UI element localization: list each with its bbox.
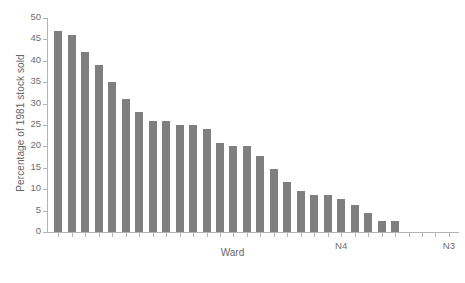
y-tick-group: 15 [47, 168, 48, 169]
y-tick-label: 35 [30, 75, 41, 86]
bar [324, 195, 332, 232]
y-tick-mark [43, 39, 47, 40]
x-tick-mark [368, 233, 369, 237]
y-tick-group: 35 [47, 82, 48, 83]
x-tick-mark [99, 233, 100, 237]
y-tick-label: 30 [30, 97, 41, 108]
y-tick-group: 45 [47, 39, 48, 40]
x-tick-mark [301, 233, 302, 237]
x-tick-mark [274, 233, 275, 237]
x-tick-mark [220, 233, 221, 237]
x-tick-mark [207, 233, 208, 237]
y-tick-mark [43, 211, 47, 212]
y-tick-mark [43, 104, 47, 105]
y-tick-mark [43, 146, 47, 147]
x-tick-mark [153, 233, 154, 237]
x-tick-mark [287, 233, 288, 237]
bar [203, 129, 211, 232]
bar [243, 146, 251, 232]
bar [81, 52, 89, 232]
x-axis-line [47, 232, 459, 233]
y-tick-label: 10 [30, 182, 41, 193]
y-tick-group: 25 [47, 125, 48, 126]
x-tick-mark [139, 233, 140, 237]
y-tick-mark [43, 189, 47, 190]
bar [391, 221, 399, 232]
y-tick-group: 0 [47, 232, 48, 233]
y-tick-label: 0 [36, 225, 41, 236]
x-tick-mark [58, 233, 59, 237]
x-tick-mark [314, 233, 315, 237]
y-tick-mark [43, 232, 47, 233]
x-tick-mark [395, 233, 396, 237]
y-tick-group: 20 [47, 146, 48, 147]
bar [149, 121, 157, 232]
bar [108, 82, 116, 232]
bar [283, 182, 291, 232]
y-tick-label: 5 [36, 204, 41, 215]
x-tick-mark [126, 233, 127, 237]
bar [122, 99, 130, 232]
x-tick-mark [72, 233, 73, 237]
bar [364, 213, 372, 232]
chart-figure: Percentage of 1981 stock sold 0510152025… [0, 0, 465, 283]
x-tick-mark [166, 233, 167, 237]
plot-area: 05101520253035404550 N4N3 [47, 18, 459, 233]
x-tick-mark [355, 233, 356, 237]
bar [54, 31, 62, 232]
x-tick-mark [422, 233, 423, 237]
y-tick-label: 20 [30, 139, 41, 150]
bar [189, 125, 197, 232]
bar [216, 143, 224, 232]
y-tick-label: 50 [30, 11, 41, 22]
x-tick-mark [341, 233, 342, 237]
y-tick-group: 5 [47, 211, 48, 212]
y-tick-group: 10 [47, 189, 48, 190]
y-tick-mark [43, 168, 47, 169]
bar [229, 146, 237, 232]
y-tick-mark [43, 61, 47, 62]
y-tick-mark [43, 18, 47, 19]
bar [310, 195, 318, 232]
x-tick-mark [449, 233, 450, 237]
y-tick-group: 30 [47, 104, 48, 105]
bar [95, 65, 103, 232]
x-tick-mark [328, 233, 329, 237]
x-tick-mark [435, 233, 436, 237]
x-tick-mark [180, 233, 181, 237]
bar [297, 191, 305, 232]
y-tick-label: 15 [30, 161, 41, 172]
x-axis-title: Ward [0, 247, 465, 258]
y-tick-label: 25 [30, 118, 41, 129]
bar [378, 221, 386, 232]
x-tick-mark [409, 233, 410, 237]
bar [162, 121, 170, 232]
bar [68, 35, 76, 232]
bar [256, 156, 264, 232]
bar [337, 199, 345, 232]
x-tick-mark [260, 233, 261, 237]
x-tick-mark [112, 233, 113, 237]
y-axis-title: Percentage of 1981 stock sold [11, 3, 31, 243]
bar [270, 169, 278, 232]
x-tick-mark [85, 233, 86, 237]
bar [351, 205, 359, 232]
x-tick-mark [247, 233, 248, 237]
y-tick-label: 45 [30, 32, 41, 43]
y-tick-mark [43, 125, 47, 126]
x-tick-mark [382, 233, 383, 237]
x-tick-mark [233, 233, 234, 237]
y-tick-label: 40 [30, 54, 41, 65]
x-tick-mark [193, 233, 194, 237]
y-tick-mark [43, 82, 47, 83]
y-tick-group: 50 [47, 18, 48, 19]
y-tick-group: 40 [47, 61, 48, 62]
bar [135, 112, 143, 232]
bar [176, 125, 184, 232]
